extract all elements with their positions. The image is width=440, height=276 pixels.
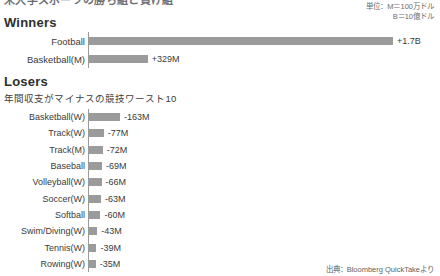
bar-track: -63M bbox=[89, 194, 440, 204]
bar-track: -77M bbox=[89, 128, 440, 138]
bar-track: -43M bbox=[89, 226, 440, 236]
bar bbox=[89, 37, 393, 45]
bar-row: Basketball(W)-163M bbox=[0, 109, 440, 125]
bar-row: Track(M)-72M bbox=[0, 142, 440, 158]
bar bbox=[89, 146, 103, 154]
bar bbox=[89, 129, 104, 137]
winners-heading: Winners bbox=[4, 15, 440, 30]
bar-track: -39M bbox=[89, 243, 440, 253]
bar-category-label: Basketball(M) bbox=[0, 54, 85, 65]
bar-category-label: Basketball(W) bbox=[0, 112, 85, 122]
bar-category-label: Track(M) bbox=[0, 145, 85, 155]
bar bbox=[89, 244, 96, 252]
bar-category-label: Track(W) bbox=[0, 128, 85, 138]
bar-value-label: -72M bbox=[107, 145, 128, 155]
winners-chart: Football+1.7BBasketball(M)+329M bbox=[0, 32, 440, 68]
bar bbox=[89, 211, 100, 219]
bar-category-label: Rowing(W) bbox=[0, 259, 85, 269]
bar-track: +329M bbox=[89, 54, 440, 64]
bar-track: -69M bbox=[89, 161, 440, 171]
bar bbox=[89, 55, 148, 63]
bar-row: Volleyball(W)-66M bbox=[0, 174, 440, 190]
bar-value-label: -35M bbox=[100, 259, 121, 269]
bar-category-label: Tennis(W) bbox=[0, 243, 85, 253]
bar-category-label: Softball bbox=[0, 210, 85, 220]
bar-value-label: -43M bbox=[101, 226, 122, 236]
bar-row: Football+1.7B bbox=[0, 32, 440, 50]
bar-track: +1.7B bbox=[89, 36, 440, 46]
bar-value-label: -66M bbox=[106, 177, 127, 187]
bar bbox=[89, 260, 96, 268]
bar-category-label: Volleyball(W) bbox=[0, 177, 85, 187]
bar bbox=[89, 195, 101, 203]
source-note: 出典：Bloomberg QuickTakeより bbox=[326, 263, 434, 274]
bar bbox=[89, 162, 102, 170]
units-note-line1: 単位：M＝100万ドル bbox=[366, 2, 434, 12]
bar-row: Track(W)-77M bbox=[0, 125, 440, 141]
bar-row: Tennis(W)-39M bbox=[0, 239, 440, 255]
losers-heading: Losers bbox=[4, 74, 440, 89]
bar-value-label: -63M bbox=[105, 194, 126, 204]
bar-track: -163M bbox=[89, 112, 440, 122]
bar-category-label: Baseball bbox=[0, 161, 85, 171]
bar-row: Softball-60M bbox=[0, 207, 440, 223]
bar-row: Swim/Diving(W)-43M bbox=[0, 223, 440, 239]
bar-category-label: Soccer(W) bbox=[0, 194, 85, 204]
bar bbox=[89, 113, 120, 121]
bar-track: -60M bbox=[89, 210, 440, 220]
bar-value-label: -60M bbox=[104, 210, 125, 220]
losers-chart: Basketball(W)-163MTrack(W)-77MTrack(M)-7… bbox=[0, 109, 440, 272]
bar-category-label: Swim/Diving(W) bbox=[0, 226, 85, 236]
bar-track: -72M bbox=[89, 145, 440, 155]
bar-value-label: -69M bbox=[106, 161, 127, 171]
bar-category-label: Football bbox=[0, 36, 85, 47]
bar-value-label: -163M bbox=[124, 112, 150, 122]
bar-value-label: -77M bbox=[108, 128, 129, 138]
bar-value-label: +1.7B bbox=[397, 36, 421, 46]
bar-track: -66M bbox=[89, 177, 440, 187]
page-title: 米大学スポーツの勝ち組と負け組 bbox=[4, 0, 174, 7]
winners-section: Winners Football+1.7BBasketball(M)+329M bbox=[0, 15, 440, 68]
bar-row: Baseball-69M bbox=[0, 158, 440, 174]
bar bbox=[89, 178, 102, 186]
losers-section: Losers 年間収支がマイナスの競技ワースト10 Basketball(W)-… bbox=[0, 74, 440, 272]
bar-row: Soccer(W)-63M bbox=[0, 190, 440, 206]
bar-value-label: -39M bbox=[100, 243, 121, 253]
losers-subtitle: 年間収支がマイナスの競技ワースト10 bbox=[4, 91, 440, 105]
bar-row: Basketball(M)+329M bbox=[0, 50, 440, 68]
bar bbox=[89, 227, 97, 235]
bar-value-label: +329M bbox=[152, 54, 180, 64]
